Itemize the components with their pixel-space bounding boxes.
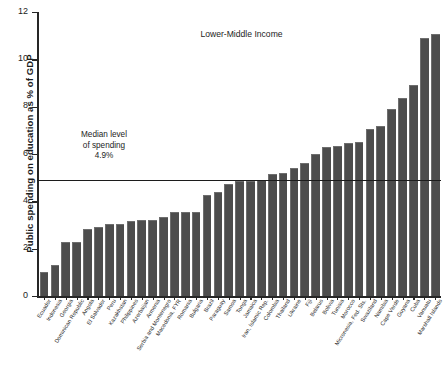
bar (387, 109, 396, 296)
bar (235, 181, 244, 296)
bar (409, 85, 418, 296)
bar (159, 217, 168, 296)
x-axis-labels: EcuadorIndonesiaGeorgiaDominican Republi… (37, 298, 441, 376)
bar (148, 220, 157, 296)
y-axis-tick: 12 (32, 12, 37, 13)
bar (116, 224, 125, 296)
bar (127, 221, 136, 296)
bar (170, 212, 179, 296)
median-annotation-line3: 4.9% (58, 151, 150, 162)
y-axis-tick: 4 (32, 201, 37, 202)
y-axis-tick: 8 (32, 107, 37, 108)
bar (192, 212, 201, 296)
y-axis-tick-label: 12 (18, 6, 28, 16)
y-axis-tick-label: 10 (18, 53, 28, 63)
bar (94, 227, 103, 296)
bar (51, 265, 60, 296)
bar (268, 174, 277, 296)
y-axis-tick-label: 6 (23, 148, 28, 158)
x-axis-label: Fiji (304, 298, 313, 307)
bar (203, 195, 212, 296)
median-annotation: Median level of spending 4.9% (58, 130, 150, 162)
median-reference-line (37, 180, 441, 181)
bar (224, 184, 233, 296)
bar (105, 224, 114, 296)
median-annotation-line1: Median level (58, 130, 150, 141)
bar (83, 229, 92, 296)
y-axis-tick: 10 (32, 59, 37, 60)
bar (72, 242, 81, 296)
bar (322, 147, 331, 296)
bar (300, 163, 309, 296)
y-axis-tick-label: 0 (23, 290, 28, 300)
bar (181, 212, 190, 296)
bar (279, 173, 288, 296)
bar (376, 126, 385, 296)
chart-container: Public spending on education as % of GDP… (0, 0, 447, 379)
bar (137, 220, 146, 296)
y-axis-tick-label: 8 (23, 100, 28, 110)
bar (290, 168, 299, 296)
bar (246, 181, 255, 296)
bar (355, 142, 364, 296)
bar (61, 242, 70, 296)
bar (398, 98, 407, 296)
bar (366, 129, 375, 296)
bar (344, 143, 353, 296)
y-axis-tick-label: 2 (23, 242, 28, 252)
median-annotation-line2: of spending (58, 141, 150, 152)
y-axis-tick: 2 (32, 249, 37, 250)
bar (40, 272, 49, 296)
bar (257, 180, 266, 296)
bar (311, 154, 320, 296)
bar (333, 146, 342, 296)
bar (214, 192, 223, 296)
bar (431, 34, 440, 296)
bar (420, 38, 429, 296)
y-axis-tick: 6 (32, 154, 37, 155)
y-axis-tick-label: 4 (23, 195, 28, 205)
y-axis-tick: 0 (32, 296, 37, 297)
